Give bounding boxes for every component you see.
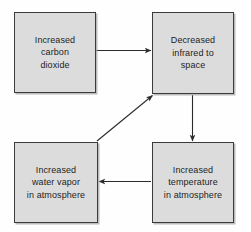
node-increased-water-vapor: Increased water vapor in atmosphere [14,142,98,223]
arrow-vapor-to-infrared [97,96,153,142]
node-label: Increased temperature in atmosphere [161,164,225,202]
node-label: Increased carbon dioxide [32,34,78,72]
node-label: Increased water vapor in atmosphere [24,164,88,202]
node-increased-temperature: Increased temperature in atmosphere [152,142,234,223]
node-label: Decreased infrared to space [168,34,218,72]
node-decreased-infrared-to-space: Decreased infrared to space [152,12,234,94]
flowchart-diagram: Increased carbon dioxide Decreased infra… [0,0,251,232]
node-increased-carbon-dioxide: Increased carbon dioxide [14,12,96,93]
